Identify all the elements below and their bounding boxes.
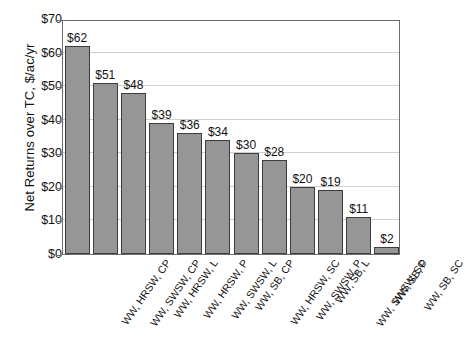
bar[interactable]	[93, 83, 118, 254]
bar-value-label: $36	[180, 118, 200, 132]
bar-slot[interactable]: $48	[121, 19, 146, 254]
bar[interactable]	[290, 187, 315, 254]
bar-value-label: $30	[236, 138, 256, 152]
bar-value-label: $2	[380, 232, 393, 246]
bar-slot[interactable]: $62	[65, 19, 90, 254]
bar-value-label: $11	[349, 202, 368, 216]
bar-value-label: $62	[67, 31, 87, 45]
y-tick-label: $0	[6, 247, 62, 261]
y-tick-label: $10	[6, 213, 62, 227]
bar-slot[interactable]: $2	[374, 19, 399, 254]
y-tick-label: $50	[6, 79, 62, 93]
bar-value-label: $19	[321, 175, 341, 189]
bar-value-label: $48	[123, 78, 143, 92]
bar-value-label: $28	[264, 145, 284, 159]
bar-slot[interactable]: $34	[205, 19, 230, 254]
bar[interactable]	[121, 93, 146, 254]
bar-value-label: $51	[95, 68, 115, 82]
y-tick-label: $40	[6, 113, 62, 127]
bar[interactable]	[149, 123, 174, 254]
y-tick-mark	[56, 255, 62, 256]
bar-value-label: $20	[292, 172, 312, 186]
y-tick-label: $20	[6, 180, 62, 194]
bar-slot[interactable]: $28	[262, 19, 287, 254]
bar[interactable]	[346, 217, 371, 254]
bar-value-label: $39	[152, 108, 172, 122]
bar[interactable]	[65, 46, 90, 254]
plot-area: $62$51$48$39$36$34$30$28$20$19$11$2	[62, 20, 400, 255]
bar-slot[interactable]: $36	[177, 19, 202, 254]
bars-layer: $62$51$48$39$36$34$30$28$20$19$11$2	[63, 21, 399, 254]
x-axis-labels: WW, HRSW, CPWW, SWSW, CPWW, HRSW, LWW, H…	[62, 257, 400, 353]
bar[interactable]	[374, 247, 399, 254]
y-tick-label: $70	[6, 12, 62, 26]
bar[interactable]	[177, 133, 202, 254]
y-tick-label: $30	[6, 146, 62, 160]
bar-slot[interactable]: $19	[318, 19, 343, 254]
bar[interactable]	[318, 190, 343, 254]
bar-slot[interactable]: $30	[234, 19, 259, 254]
bar-slot[interactable]: $51	[93, 19, 118, 254]
y-axis-ticks: $70$60$50$40$30$20$10$0	[0, 0, 62, 275]
bar-slot[interactable]: $20	[290, 19, 315, 254]
bar[interactable]	[205, 140, 230, 254]
bar-slot[interactable]: $39	[149, 19, 174, 254]
y-tick-label: $60	[6, 46, 62, 60]
x-tick-label: WW, SB, P	[390, 257, 430, 306]
bar[interactable]	[262, 160, 287, 254]
bar-value-label: $34	[208, 125, 228, 139]
bar[interactable]	[234, 153, 259, 254]
bar-slot[interactable]: $11	[346, 19, 371, 254]
